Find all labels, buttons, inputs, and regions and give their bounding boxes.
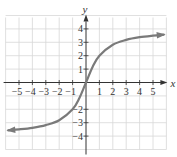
x-tick-label: −4	[25, 86, 36, 97]
x-tick-label: 1	[97, 86, 102, 97]
x-axis-label: x	[169, 77, 175, 89]
function-graph: −5−4−3−2−112345−4−3−22341 x y	[0, 0, 177, 157]
x-tick-label: −3	[38, 86, 49, 97]
y-tick-label: −3	[72, 117, 83, 128]
y-tick-label: 1	[78, 64, 83, 75]
y-tick-label: 2	[78, 50, 83, 61]
y-tick-label: 4	[78, 23, 83, 34]
y-axis-label: y	[82, 3, 88, 15]
x-tick-label: −1	[65, 86, 76, 97]
x-tick-label: 5	[151, 86, 156, 97]
y-tick-label: 3	[78, 37, 83, 48]
x-tick-label: 3	[124, 86, 129, 97]
x-tick-label: −5	[12, 86, 23, 97]
y-tick-label: −4	[72, 131, 83, 142]
x-tick-label: −2	[52, 86, 63, 97]
x-tick-label: 4	[137, 86, 142, 97]
x-tick-label: 2	[110, 86, 115, 97]
chart-svg: −5−4−3−2−112345−4−3−22341 x y	[0, 0, 177, 157]
